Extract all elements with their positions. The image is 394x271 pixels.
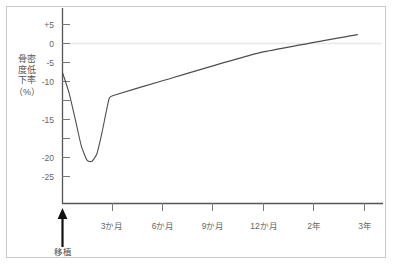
chart-figure: 骨密度低下率 （%） +5 0 -5 -10 -15 -20 -25 3か月 6…: [0, 0, 394, 271]
x-tick-label: 3年: [358, 219, 372, 231]
y-axis-unit-text: （%）: [14, 87, 40, 98]
chart-plot-area: [0, 0, 394, 271]
y-tick-label: +5: [30, 20, 54, 30]
x-tick-label: 3か月: [101, 219, 124, 231]
y-tick-label: -20: [30, 153, 54, 163]
y-tick-label: -10: [30, 77, 54, 87]
y-tick-label: -25: [30, 172, 54, 182]
transplant-arrow-icon: [58, 208, 68, 247]
x-tick-label: 12か月: [250, 219, 277, 231]
y-axis-ticks: [62, 25, 70, 177]
x-tick-label: 6か月: [152, 219, 175, 231]
x-tick-label: 9か月: [202, 219, 225, 231]
x-tick-label: 2年: [307, 219, 321, 231]
x-axis-ticks: [113, 203, 365, 211]
y-tick-label: 0: [30, 39, 54, 49]
y-tick-label: -15: [30, 115, 54, 125]
transplant-label: 移植: [54, 245, 72, 257]
data-series-line: [63, 35, 358, 162]
y-tick-label: -5: [30, 58, 54, 68]
